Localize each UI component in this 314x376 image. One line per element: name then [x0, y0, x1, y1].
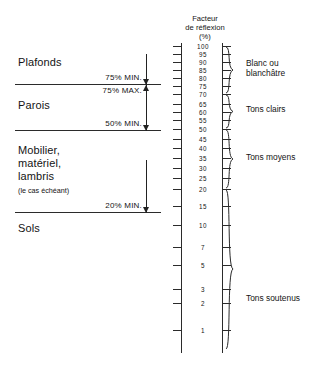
- tone-group-label-blanc: Blanc ou blanchâtre: [246, 58, 285, 78]
- scale-value-65: 65: [185, 101, 221, 108]
- scale-value-40: 40: [185, 145, 221, 152]
- requirement-walls-max: 75% MAX.: [90, 86, 142, 95]
- surface-label-furniture: Mobilier, matériel, lambris (le cas éché…: [18, 144, 113, 197]
- scale-tick-left: [173, 94, 182, 95]
- scale-value-2: 2: [185, 300, 221, 307]
- scale-value-35: 35: [185, 155, 221, 162]
- scale-tick-left: [173, 158, 182, 159]
- surface-label-walls: Parois: [18, 99, 50, 111]
- scale-tick-left: [173, 129, 182, 130]
- scale-tick-left: [173, 120, 182, 121]
- scale-value-55: 55: [185, 117, 221, 124]
- arrow-head-down-icon: [143, 207, 149, 213]
- arrow-head-down-icon: [143, 125, 149, 131]
- scale-tick-left: [173, 104, 182, 105]
- scale-tick-left: [173, 46, 182, 47]
- scale-tick-left: [173, 206, 182, 207]
- scale-value-45: 45: [185, 136, 221, 143]
- brace-tons-soutenus: [225, 189, 234, 350]
- tone-group-blanc-line-1: Blanc ou: [246, 58, 279, 68]
- arrow-walls-range: [142, 85, 151, 131]
- tone-group-blanc-line-2: blanchâtre: [246, 68, 285, 78]
- scale-tick-left: [173, 148, 182, 149]
- scale-value-50: 50: [185, 126, 221, 133]
- scale-value-85: 85: [185, 67, 221, 74]
- surface-label-furniture-line-3: lambris: [18, 170, 54, 182]
- scale-rail-right: [222, 43, 223, 353]
- axis-title-line-3: (%): [199, 32, 211, 41]
- tone-group-label-clairs: Tons clairs: [246, 104, 286, 114]
- requirement-furniture-min: 20% MIN.: [90, 201, 142, 210]
- divider-ceiling-walls: [15, 84, 161, 85]
- scale-tick-left: [173, 303, 182, 304]
- scale-value-7: 7: [185, 244, 221, 251]
- scale-value-5: 5: [185, 262, 221, 269]
- scale-tick-left: [173, 168, 182, 169]
- brace-blanc: [225, 46, 234, 94]
- scale-value-10: 10: [185, 222, 221, 229]
- scale-value-70: 70: [185, 91, 221, 98]
- scale-value-20: 20: [185, 186, 221, 193]
- scale-tick-left: [173, 62, 182, 63]
- scale-value-25: 25: [185, 175, 221, 182]
- surface-label-furniture-line-2: matériel,: [18, 157, 61, 169]
- surface-label-floor: Sols: [18, 222, 40, 234]
- surface-label-furniture-line-1: Mobilier,: [18, 144, 60, 156]
- arrow-head-up-icon: [143, 85, 149, 91]
- surface-label-furniture-note: (le cas échéant): [18, 184, 113, 197]
- scale-tick-left: [173, 247, 182, 248]
- reflectance-factor-diagram: Facteur de réflexion (%) Plafonds Parois…: [0, 0, 314, 376]
- scale-tick-left: [173, 112, 182, 113]
- arrow-furniture-min: [142, 160, 151, 213]
- scale-value-3: 3: [185, 286, 221, 293]
- scale-tick-left: [173, 78, 182, 79]
- arrow-ceiling-min: [142, 54, 151, 85]
- scale-value-90: 90: [185, 59, 221, 66]
- tone-group-label-soutenus: Tons soutenus: [246, 293, 300, 303]
- axis-title: Facteur de réflexion (%): [170, 14, 240, 42]
- scale-value-30: 30: [185, 165, 221, 172]
- scale-tick-left: [173, 54, 182, 55]
- scale-value-95: 95: [185, 51, 221, 58]
- surface-label-ceiling: Plafonds: [18, 56, 62, 68]
- requirement-walls-min: 50% MIN.: [90, 119, 142, 128]
- tone-group-label-moyens: Tons moyens: [246, 152, 295, 162]
- axis-title-line-1: Facteur: [192, 14, 218, 23]
- scale-value-80: 80: [185, 75, 221, 82]
- scale-tick-left: [173, 265, 182, 266]
- scale-tick-left: [173, 70, 182, 71]
- scale-value-100: 100: [185, 43, 221, 50]
- scale-tick-left: [173, 139, 182, 140]
- scale-rail-left: [181, 43, 182, 353]
- scale-tick-left: [173, 289, 182, 290]
- axis-title-line-2: de réflexion: [185, 23, 224, 32]
- scale-tick-left: [173, 330, 182, 331]
- scale-value-75: 75: [185, 83, 221, 90]
- brace-tons-moyens: [225, 129, 234, 189]
- requirement-ceiling-min: 75% MIN.: [90, 73, 142, 82]
- divider-walls-furniture: [15, 130, 161, 131]
- scale-tick-left: [173, 189, 182, 190]
- scale-tick-left: [173, 178, 182, 179]
- brace-tons-clairs: [225, 94, 234, 129]
- scale-value-60: 60: [185, 109, 221, 116]
- divider-furniture-floor: [15, 212, 161, 213]
- scale-value-1: 1: [185, 327, 221, 334]
- scale-tick-left: [173, 225, 182, 226]
- scale-tick-left: [173, 86, 182, 87]
- arrow-shaft: [146, 160, 147, 213]
- scale-value-15: 15: [185, 203, 221, 210]
